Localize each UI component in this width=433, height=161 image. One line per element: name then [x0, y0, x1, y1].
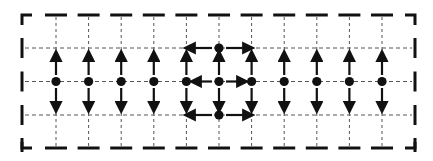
frame-corner-top-left	[22, 15, 32, 25]
lattice-node-dot	[182, 77, 191, 86]
lattice-node-dot	[214, 43, 223, 52]
lattice-displacement-diagram	[0, 0, 433, 161]
lattice-node-dot	[149, 77, 158, 86]
lattice-node-dot	[214, 77, 223, 86]
lattice-node-dot	[117, 77, 126, 86]
lattice-node-dot	[377, 77, 386, 86]
lattice-node-dot	[51, 77, 60, 86]
lattice-node-dot	[84, 77, 93, 86]
lattice-node-dot	[345, 77, 354, 86]
lattice-node-dot	[280, 77, 289, 86]
frame-corner-top-right	[405, 15, 415, 25]
lattice-node-dot	[312, 77, 321, 86]
lattice-node-dot	[214, 110, 223, 119]
lattice-node-dot	[247, 77, 256, 86]
